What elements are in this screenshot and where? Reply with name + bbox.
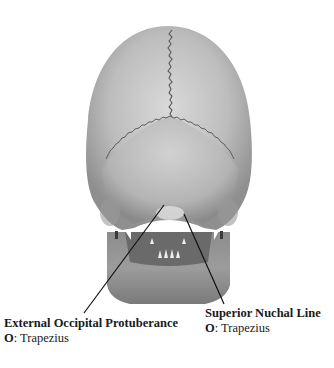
label-title: External Occipital Protuberance [4, 316, 178, 331]
label-external-occipital-protuberance: External Occipital Protuberance O: Trape… [4, 316, 178, 346]
muscle-name: Trapezius [221, 321, 270, 335]
origin-prefix: O [4, 331, 14, 345]
origin-prefix: O [205, 321, 215, 335]
label-superior-nuchal-line: Superior Nuchal Line O: Trapezius [205, 306, 321, 336]
label-attachment: O: Trapezius [205, 321, 321, 336]
label-attachment: O: Trapezius [4, 331, 178, 346]
label-title: Superior Nuchal Line [205, 306, 321, 321]
muscle-name: Trapezius [20, 331, 69, 345]
